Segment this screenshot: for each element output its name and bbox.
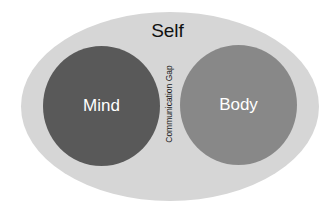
body-circle: Body	[180, 45, 297, 165]
self-label: Self	[0, 20, 335, 42]
communication-gap-label: Communication Gap	[164, 65, 174, 142]
body-label: Body	[219, 95, 258, 115]
mind-circle: Mind	[43, 46, 160, 166]
mind-label: Mind	[83, 96, 120, 116]
